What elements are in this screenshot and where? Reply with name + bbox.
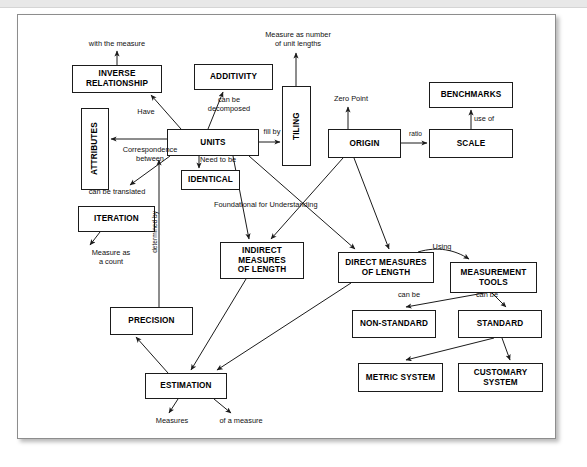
node-label-standard: STANDARD	[475, 319, 526, 329]
node-standard[interactable]: STANDARD	[458, 310, 542, 338]
edge-label-foundational-for-understanding: Foundational for Understanding	[214, 201, 366, 210]
edge-label-ratio: ratio	[404, 130, 427, 138]
diagram-page: INVERSE RELATIONSHIP ADDITIVITY TILING B…	[17, 14, 556, 439]
node-label-indirect-measures-of-length: INDIRECT MEASURES OF LENGTH	[236, 246, 289, 275]
node-direct-measures-of-length[interactable]: DIRECT MEASURES OF LENGTH	[338, 252, 434, 283]
node-metric-system[interactable]: METRIC SYSTEM	[358, 363, 443, 392]
edge-label-can-be-decomposed: can be decomposed	[198, 96, 260, 114]
node-label-iteration: ITERATION	[92, 214, 141, 224]
edge-label-zero-point: Zero Point	[323, 95, 379, 104]
edge-label-determined-by: determined by	[151, 211, 159, 253]
edge-label-measure-as-number-of-unit-lengths: Measure as number of unit lengths	[250, 31, 346, 49]
node-label-tiling: TILING	[292, 110, 302, 142]
top-gray-strip	[0, 0, 587, 8]
edge-estimation-to-precision	[136, 337, 168, 373]
edge-label-using: Using	[426, 243, 458, 252]
edge-label-with-the-measure: with the measure	[66, 40, 168, 49]
edge-label-fill-by: fill by	[258, 128, 286, 137]
node-attributes[interactable]: ATTRIBUTES	[81, 108, 109, 190]
node-label-identical: IDENTICAL	[186, 175, 235, 185]
edge-label-need-to-be: Need to be	[200, 156, 258, 165]
edge-label-have: Have	[131, 108, 161, 117]
node-label-inverse-relationship: INVERSE RELATIONSHIP	[84, 69, 150, 88]
node-label-benchmarks: BENCHMARKS	[439, 90, 504, 100]
edge-label-measure-as-a-count: Measure as a count	[80, 249, 142, 267]
node-non-standard[interactable]: NON-STANDARD	[352, 310, 436, 338]
node-scale[interactable]: SCALE	[429, 129, 513, 158]
edge-label-correspondence-between: Correspondence between	[110, 146, 190, 164]
node-benchmarks[interactable]: BENCHMARKS	[429, 82, 513, 108]
edge-estimation-to-measures	[169, 399, 178, 413]
node-label-customary-system: CUSTOMARY SYSTEM	[472, 368, 530, 387]
screenshot-root: INVERSE RELATIONSHIP ADDITIVITY TILING B…	[0, 0, 587, 467]
node-inverse-relationship[interactable]: INVERSE RELATIONSHIP	[72, 65, 162, 93]
edge-standard-to-metric	[406, 338, 494, 360]
edge-iteration-to-measure-as-a-count	[90, 232, 100, 245]
node-identical[interactable]: IDENTICAL	[181, 170, 240, 190]
node-precision[interactable]: PRECISION	[110, 307, 193, 335]
node-label-measurement-tools: MEASUREMENT TOOLS	[459, 268, 529, 287]
node-label-scale: SCALE	[455, 139, 488, 149]
node-label-metric-system: METRIC SYSTEM	[364, 373, 437, 383]
node-customary-system[interactable]: CUSTOMARY SYSTEM	[458, 363, 543, 392]
edge-label-measures: Measures	[146, 417, 198, 426]
node-additivity[interactable]: ADDITIVITY	[194, 64, 273, 90]
edge-label-can-be-translated: can be translated	[73, 188, 161, 197]
node-estimation[interactable]: ESTIMATION	[145, 373, 227, 399]
edge-direct-to-estimation	[217, 283, 351, 370]
node-indirect-measures-of-length[interactable]: INDIRECT MEASURES OF LENGTH	[220, 242, 304, 279]
node-label-additivity: ADDITIVITY	[208, 72, 259, 82]
edge-label-can-be-left: can be	[392, 291, 426, 300]
node-origin[interactable]: ORIGIN	[328, 129, 401, 158]
edge-origin-to-indirect	[271, 158, 343, 239]
node-label-estimation: ESTIMATION	[158, 381, 213, 391]
node-iteration[interactable]: ITERATION	[78, 206, 155, 232]
node-label-units: UNITS	[198, 138, 227, 148]
node-label-non-standard: NON-STANDARD	[358, 319, 430, 329]
edge-label-use-of: use of	[474, 115, 512, 124]
node-label-origin: ORIGIN	[347, 139, 381, 149]
node-tiling[interactable]: TILING	[282, 86, 311, 166]
node-measurement-tools[interactable]: MEASUREMENT TOOLS	[450, 262, 537, 293]
node-label-precision: PRECISION	[126, 316, 176, 326]
node-label-direct-measures-of-length: DIRECT MEASURES OF LENGTH	[343, 258, 428, 277]
edge-estimation-to-of-a-measure	[214, 399, 231, 413]
node-label-attributes: ATTRIBUTES	[90, 121, 100, 178]
edge-units-to-indirect	[233, 156, 249, 239]
edge-label-can-be-right: can be	[470, 291, 504, 300]
edge-standard-to-customary	[502, 338, 510, 360]
edge-label-of-a-measure: of a measure	[208, 417, 274, 426]
